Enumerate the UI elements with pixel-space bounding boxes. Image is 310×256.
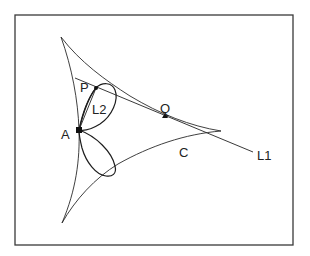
diagram-canvas: P L2 A Q C L1 bbox=[0, 0, 310, 256]
curve-c-lower-arc bbox=[62, 131, 221, 223]
label-c: C bbox=[179, 145, 188, 160]
diagram-figure: P L2 A Q C L1 bbox=[0, 0, 310, 256]
point-p-marker bbox=[94, 86, 98, 90]
label-l1: L1 bbox=[257, 148, 271, 163]
label-a: A bbox=[61, 127, 70, 142]
label-q: Q bbox=[160, 101, 170, 116]
label-p: P bbox=[80, 80, 89, 95]
label-l2: L2 bbox=[92, 102, 106, 117]
point-a-marker bbox=[76, 127, 82, 133]
figure-frame bbox=[15, 15, 293, 245]
